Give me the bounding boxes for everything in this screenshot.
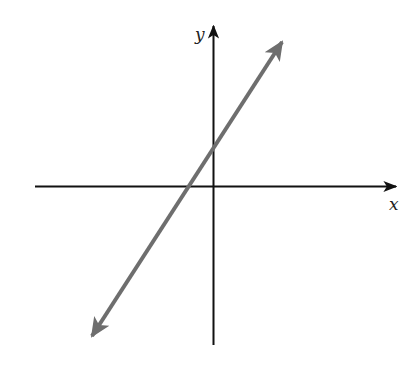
graph-line (92, 42, 282, 336)
coordinate-plane: y x (0, 0, 417, 377)
x-axis-label: x (389, 194, 399, 214)
y-axis-label: y (194, 24, 205, 44)
